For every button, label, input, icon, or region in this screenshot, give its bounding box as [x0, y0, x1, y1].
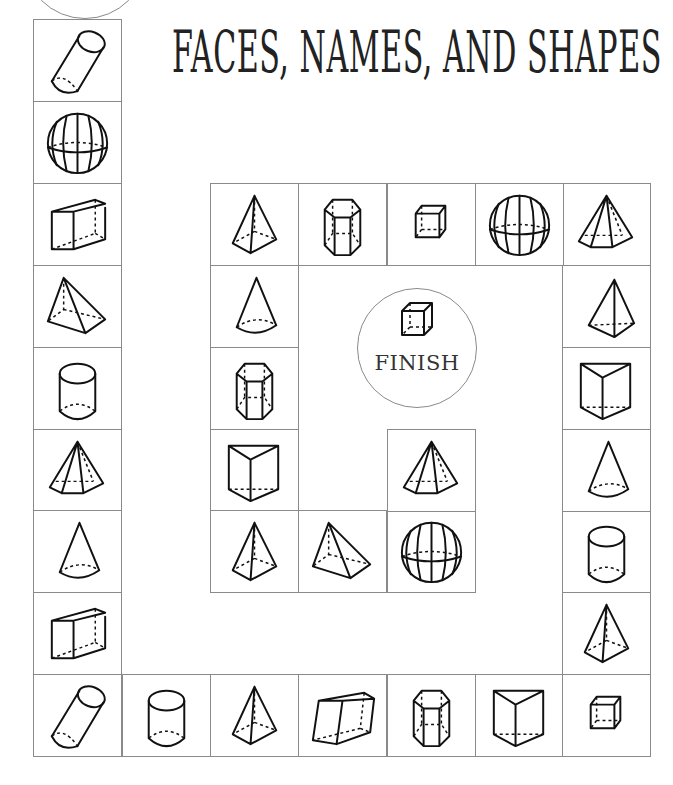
finish-circle[interactable]: FINISH: [357, 288, 477, 408]
board-space-triangular-prism[interactable]: [210, 429, 299, 512]
board-space-oblique-cylinder[interactable]: [33, 19, 122, 102]
cone-icon: [563, 430, 650, 511]
cylinder-icon: [123, 675, 210, 756]
board-space-triangular-pyramid[interactable]: [33, 265, 122, 348]
title-text: FACES, NAMES, AND SHAPES: [172, 22, 662, 82]
board-space-cylinder[interactable]: [33, 347, 122, 430]
board-space-sphere[interactable]: [475, 183, 564, 266]
square-pyramid-icon: [563, 593, 650, 674]
cylinder-icon: [563, 511, 650, 592]
board-space-cube[interactable]: [387, 183, 476, 266]
board-space-hexagonal-pyramid[interactable]: [387, 429, 476, 512]
board-space-oblique-prism[interactable]: [298, 674, 387, 757]
game-board: FACES, NAMES, AND SHAPES FINISH: [0, 0, 673, 785]
rectangular-prism-icon: [34, 184, 121, 265]
board-space-triangular-prism[interactable]: [562, 347, 651, 430]
oblique-cylinder-icon: [34, 675, 121, 756]
triangular-pyramid-icon: [299, 511, 386, 592]
square-pyramid-icon: [211, 184, 298, 265]
page-title: FACES, NAMES, AND SHAPES: [172, 22, 650, 82]
cube-icon: [388, 184, 475, 265]
board-space-oblique-cylinder[interactable]: [33, 674, 122, 757]
start-circle: [23, 0, 147, 19]
triangular-prism-icon: [211, 430, 298, 511]
board-space-cone[interactable]: [562, 429, 651, 512]
board-space-cube[interactable]: [562, 674, 651, 757]
cone-icon: [211, 266, 298, 347]
board-space-square-pyramid[interactable]: [210, 183, 299, 266]
square-pyramid-icon: [211, 675, 298, 756]
finish-label: FINISH: [358, 351, 476, 375]
hexagonal-pyramid-icon: [34, 430, 121, 511]
sphere-icon: [34, 102, 121, 183]
oblique-cylinder-icon: [34, 20, 121, 101]
board-space-hexagonal-prism[interactable]: [387, 674, 476, 757]
board-space-square-pyramid[interactable]: [210, 510, 299, 593]
rectangular-prism-icon: [34, 593, 121, 674]
cylinder-icon: [34, 348, 121, 429]
cone-icon: [34, 511, 121, 592]
hexagonal-prism-icon: [211, 348, 298, 429]
board-space-hexagonal-pyramid[interactable]: [562, 183, 651, 266]
sphere-icon: [476, 184, 563, 265]
sphere-icon: [388, 511, 475, 592]
board-space-cylinder[interactable]: [122, 674, 211, 757]
hexagonal-prism-icon: [299, 184, 386, 265]
board-space-triangular-pyramid-upright[interactable]: [562, 265, 651, 348]
board-space-triangular-prism[interactable]: [475, 674, 564, 757]
hexagonal-prism-icon: [388, 675, 475, 756]
board-space-sphere[interactable]: [33, 101, 122, 184]
cube-icon: [563, 675, 650, 756]
square-pyramid-icon: [211, 511, 298, 592]
triangular-prism-icon: [563, 348, 650, 429]
triangular-pyramid-upright-icon: [563, 266, 650, 347]
oblique-prism-icon: [299, 675, 386, 756]
board-space-cylinder[interactable]: [562, 510, 651, 593]
cube-icon: [396, 297, 440, 341]
board-space-square-pyramid[interactable]: [562, 592, 651, 675]
board-space-cone[interactable]: [210, 265, 299, 348]
board-space-rectangular-prism[interactable]: [33, 183, 122, 266]
board-space-triangular-pyramid[interactable]: [298, 510, 387, 593]
board-space-sphere[interactable]: [387, 510, 476, 593]
board-space-rectangular-prism[interactable]: [33, 592, 122, 675]
board-space-square-pyramid[interactable]: [210, 674, 299, 757]
hexagonal-pyramid-icon: [563, 184, 650, 265]
hexagonal-pyramid-icon: [388, 430, 475, 511]
board-space-hexagonal-prism[interactable]: [298, 183, 387, 266]
board-space-cone[interactable]: [33, 510, 122, 593]
board-space-hexagonal-pyramid[interactable]: [33, 429, 122, 512]
triangular-pyramid-icon: [34, 266, 121, 347]
board-space-hexagonal-prism[interactable]: [210, 347, 299, 430]
triangular-prism-icon: [476, 675, 563, 756]
